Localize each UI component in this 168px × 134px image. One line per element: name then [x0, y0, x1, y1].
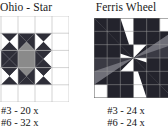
block-title-ohio: Ohio - Star	[0, 0, 84, 14]
ohio-center-square	[18, 50, 35, 67]
ferris-piece-count-line-1: #3 - 24 x	[84, 105, 168, 117]
ferris-piece-count-line-2: #6 - 24 x	[84, 117, 168, 129]
quilt-block-diagram-ferris	[94, 18, 168, 98]
ohio-star-svg	[0, 16, 69, 102]
block-title-ferris: Ferris Wheel	[84, 0, 168, 14]
ferris-arm-right	[147, 58, 168, 71]
ferris-corner-bottom-left	[94, 85, 107, 98]
ferris-wheel-svg	[94, 18, 168, 98]
ferris-corner-top-right	[160, 18, 168, 31]
ohio-piece-count-line-2: #6 - 32 x	[0, 117, 84, 129]
block-panel-ferris: Ferris Wheel	[84, 0, 168, 134]
quilt-block-sheet: Ohio - Star	[0, 0, 168, 134]
block-panel-ohio: Ohio - Star	[0, 0, 84, 134]
quilt-block-diagram-ohio	[0, 16, 69, 102]
ohio-piece-count-line-1: #3 - 20 x	[0, 105, 84, 117]
